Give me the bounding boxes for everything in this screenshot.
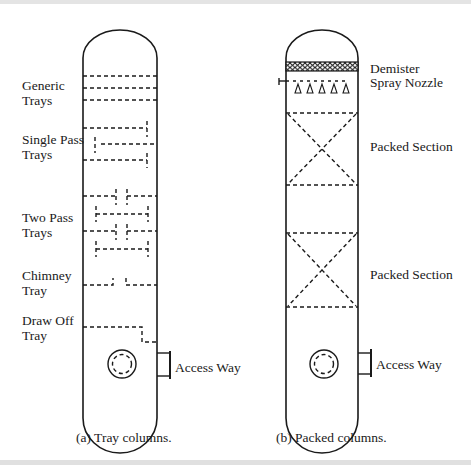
caption-tray-columns: (a) Tray columns. bbox=[76, 430, 172, 445]
label-packed-section-1: Packed Section bbox=[370, 139, 453, 154]
access-way-nozzle-a bbox=[157, 351, 170, 379]
label-chimney-line2: Tray bbox=[22, 283, 72, 298]
access-way-nozzle-b bbox=[358, 349, 371, 377]
label-packed-section-2: Packed Section bbox=[370, 267, 453, 282]
label-two-pass-line1: Two Pass bbox=[22, 210, 73, 225]
label-two-pass-line2: Trays bbox=[22, 225, 73, 240]
demister-pad bbox=[286, 62, 358, 71]
label-generic-trays: Generic Trays bbox=[22, 78, 65, 108]
packed-section-2 bbox=[286, 233, 358, 307]
tray-column-vessel bbox=[83, 30, 157, 453]
bottom-border-band bbox=[0, 460, 471, 465]
label-two-pass-trays: Two Pass Trays bbox=[22, 210, 73, 240]
caption-packed-columns: (b) Packed columns. bbox=[276, 430, 387, 445]
label-generic-line2: Trays bbox=[22, 93, 65, 108]
label-chimney-tray: Chimney Tray bbox=[22, 268, 72, 298]
generic-trays bbox=[83, 76, 157, 100]
label-generic-line1: Generic bbox=[22, 78, 65, 93]
spray-nozzle-header bbox=[279, 78, 349, 93]
label-demister: Demister bbox=[370, 61, 420, 76]
label-draw-off-line1: Draw Off bbox=[22, 313, 74, 328]
label-single-pass-trays: Single Pass Trays bbox=[22, 132, 84, 162]
label-draw-off-line2: Tray bbox=[22, 328, 74, 343]
manway-b bbox=[310, 350, 338, 378]
label-draw-off-tray: Draw Off Tray bbox=[22, 313, 74, 343]
label-chimney-line1: Chimney bbox=[22, 268, 72, 283]
label-access-way-a: Access Way bbox=[175, 360, 241, 375]
label-access-way-b: Access Way bbox=[376, 357, 442, 372]
two-pass-trays bbox=[83, 189, 157, 257]
chimney-tray bbox=[83, 278, 157, 285]
single-pass-trays bbox=[83, 121, 157, 168]
label-single-pass-line2: Trays bbox=[22, 147, 84, 162]
label-spray-nozzle: Spray Nozzle bbox=[370, 75, 443, 90]
label-single-pass-line1: Single Pass bbox=[22, 132, 84, 147]
packed-section-1 bbox=[286, 113, 358, 185]
draw-off-tray bbox=[83, 327, 157, 342]
manway-a bbox=[108, 350, 136, 378]
